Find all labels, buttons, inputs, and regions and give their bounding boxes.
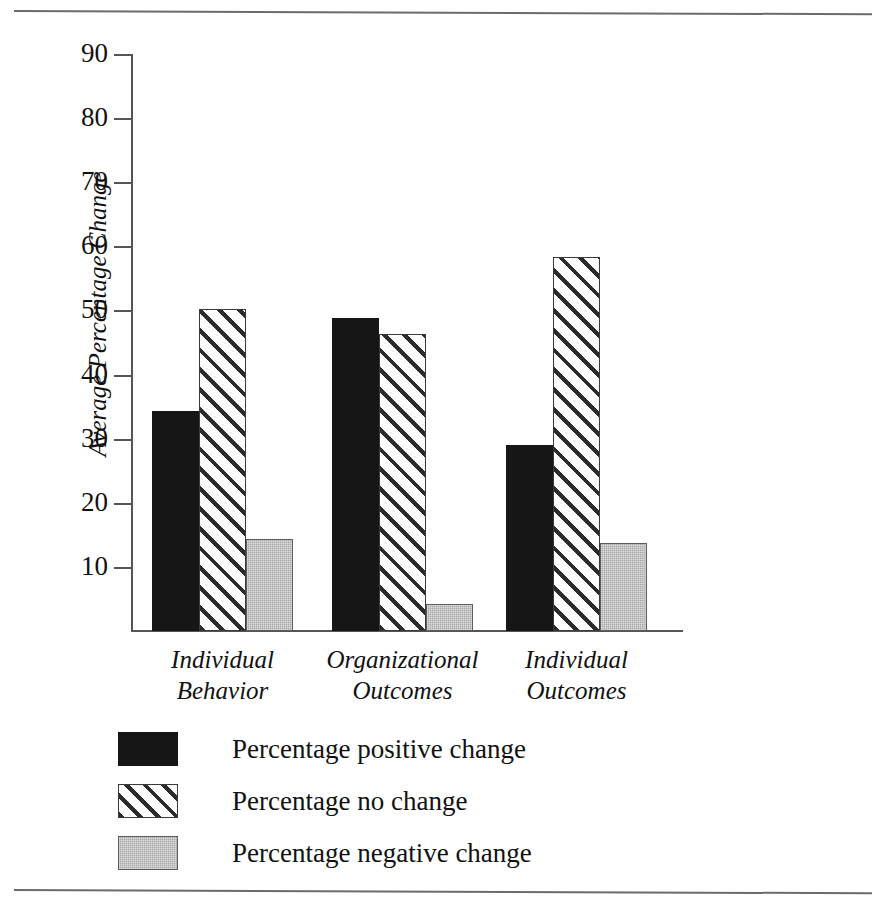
- category-label: IndividualOutcomes: [464, 645, 689, 706]
- y-tick-mark: [114, 439, 132, 441]
- y-tick-label: 80: [62, 104, 108, 131]
- legend: Percentage positive changePercentage no …: [118, 723, 738, 879]
- y-tick-label: 60: [62, 232, 108, 259]
- y-tick-mark: [114, 310, 132, 312]
- bar-nochange[interactable]: [199, 309, 246, 631]
- bar-nochange[interactable]: [553, 257, 600, 631]
- bar-negative[interactable]: [600, 543, 647, 631]
- y-tick-label: 40: [62, 361, 108, 388]
- bar-negative[interactable]: [426, 604, 473, 631]
- bar-nochange[interactable]: [379, 334, 426, 631]
- bars-layer: [131, 54, 683, 631]
- y-tick-label: 50: [62, 296, 108, 323]
- y-tick-mark: [114, 118, 132, 120]
- bar-positive[interactable]: [332, 318, 379, 631]
- bar-positive[interactable]: [506, 445, 553, 631]
- bar-negative[interactable]: [246, 539, 293, 631]
- bar-positive[interactable]: [152, 411, 199, 631]
- y-tick-label: 70: [62, 168, 108, 195]
- bar-group: [506, 54, 647, 631]
- y-tick-mark: [114, 567, 132, 569]
- page-rule-bottom: [14, 889, 872, 894]
- y-tick-mark: [114, 503, 132, 505]
- y-tick-label: 30: [62, 425, 108, 452]
- legend-label: Percentage negative change: [232, 838, 532, 869]
- y-tick-mark: [114, 375, 132, 377]
- x-axis-category-labels: IndividualBehaviorOrganizationalOutcomes…: [131, 645, 683, 725]
- category-label-line: Individual: [464, 645, 689, 676]
- legend-label: Percentage no change: [232, 786, 467, 817]
- y-tick-mark: [114, 182, 132, 184]
- legend-item[interactable]: Percentage positive change: [118, 723, 738, 775]
- plot-area: Average Percentage Change 90807060504030…: [0, 0, 886, 700]
- legend-label: Percentage positive change: [232, 734, 526, 765]
- category-label-line: Outcomes: [464, 676, 689, 707]
- legend-swatch-negative: [118, 836, 178, 870]
- legend-item[interactable]: Percentage negative change: [118, 827, 738, 879]
- legend-item[interactable]: Percentage no change: [118, 775, 738, 827]
- bar-group: [332, 54, 473, 631]
- y-tick-label: 20: [62, 489, 108, 516]
- legend-swatch-nochange: [118, 784, 178, 818]
- y-tick-mark: [114, 54, 132, 56]
- y-tick-label: 10: [62, 553, 108, 580]
- bar-group: [152, 54, 293, 631]
- y-tick-label: 90: [62, 40, 108, 67]
- figure: Average Percentage Change 90807060504030…: [0, 0, 886, 919]
- y-tick-mark: [114, 246, 132, 248]
- legend-swatch-positive: [118, 732, 178, 766]
